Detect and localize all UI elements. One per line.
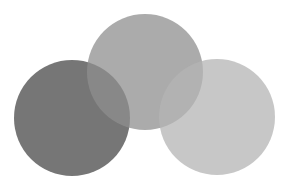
overlapping-circles-graphic [0, 0, 291, 189]
circles-illustration [0, 0, 291, 189]
circle-right [159, 59, 275, 175]
